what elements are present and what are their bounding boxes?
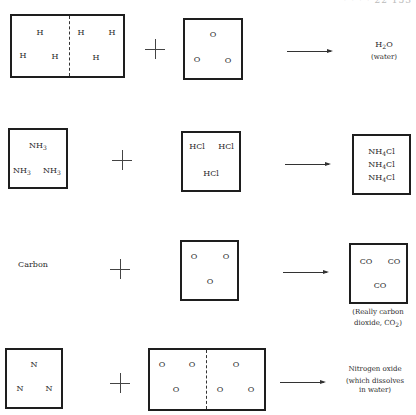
molecule: NH4Cl (354, 171, 409, 184)
atom: O (233, 361, 240, 369)
atom: N (46, 385, 53, 393)
atom: O (159, 361, 166, 369)
page-header: · · · · 22 153 (344, 0, 412, 5)
atom: O (223, 253, 230, 261)
product-name: Nitrogen oxide (346, 363, 404, 375)
atom: H (109, 29, 116, 37)
atom: N (31, 361, 38, 369)
product-note: (water) (371, 51, 397, 63)
molecule: NH3 (29, 142, 47, 150)
ammonia-box: NH3 NH3 NH3 (8, 128, 68, 189)
plus-sign (110, 259, 130, 279)
hcl-box: HCl HCl HCl (181, 131, 241, 192)
product-formula: H2O (371, 39, 397, 51)
molecule: CO (388, 258, 401, 266)
atom: O (194, 56, 201, 64)
molecule: HCl (203, 170, 219, 178)
molecule: HCl (189, 143, 205, 151)
atom: O (210, 31, 217, 39)
carbon-monoxide-box: CO CO CO (349, 243, 408, 304)
plus-sign (112, 150, 132, 170)
molecule: CO (360, 258, 373, 266)
reaction-arrow (287, 51, 331, 52)
oxygen-box: O O O (180, 240, 239, 301)
caption-line: dioxide, CO2) (352, 318, 404, 329)
atom: H (20, 52, 27, 60)
molecule: NH3 (13, 167, 31, 175)
atom: H (93, 54, 100, 62)
ammonium-chloride-box: NH4Cl NH4Cl NH4Cl (352, 134, 411, 195)
caption-line: (Really carbon (352, 307, 404, 318)
atom: N (17, 385, 24, 393)
molecule: CO (374, 282, 387, 290)
product-label: H2O (water) (371, 39, 397, 63)
dashed-divider (206, 350, 207, 409)
atom: O (207, 278, 214, 286)
dashed-divider (69, 16, 70, 76)
plus-sign (110, 373, 130, 393)
atom: O (189, 361, 196, 369)
oxygen-box-double: O O O O O O (148, 348, 266, 411)
molecule: NH4Cl (354, 158, 409, 171)
carbon-label: Carbon (18, 259, 48, 271)
molecule-stack: NH4Cl NH4Cl NH4Cl (354, 145, 409, 184)
atom: O (191, 253, 198, 261)
reaction-arrow (283, 272, 327, 273)
atom: O (225, 57, 232, 65)
oxygen-box: O O O (183, 18, 243, 80)
molecule: HCl (218, 143, 234, 151)
atom: O (248, 386, 255, 394)
reaction-arrow (280, 382, 324, 383)
nitrogen-box: N N N (5, 348, 63, 409)
atom: O (217, 386, 224, 394)
molecule: NH3 (43, 167, 61, 175)
atom: H (78, 29, 85, 37)
plus-sign (145, 39, 165, 59)
atom: H (52, 53, 59, 61)
hydrogen-box: H H H H H H (10, 14, 125, 78)
product-caption: (Really carbon dioxide, CO2) (352, 307, 404, 329)
molecule: NH4Cl (354, 145, 409, 158)
atom: O (173, 386, 180, 394)
product-label: Nitrogen oxide (which dissolves in water… (346, 363, 404, 396)
reaction-arrow (285, 164, 329, 165)
atom: H (37, 29, 44, 37)
